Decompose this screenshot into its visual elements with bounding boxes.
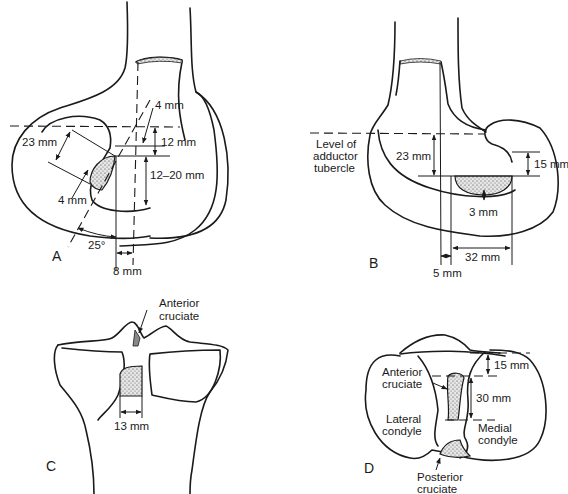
femur-b-cut-surface (400, 59, 441, 65)
femur-a-dashed-reference-horizontal (10, 126, 180, 127)
tibia-d-anterior-cruciate-tunnel (447, 373, 464, 420)
panel-label-d: D (364, 460, 374, 476)
label-b-15mm: 15 mm (534, 158, 568, 170)
tibia-c-lateral-plateau (62, 348, 124, 420)
panel-label-a: A (52, 248, 62, 264)
femur-b-line-vertical-5mm-left (440, 62, 441, 265)
label-b-5mm: 5 mm (433, 267, 462, 279)
label-a-12-20mm: 12–20 mm (150, 169, 204, 181)
label-c-13mm: 13 mm (114, 420, 149, 432)
tibia-c-graft-tunnel (120, 366, 142, 396)
tibia-c-medial-plateau (149, 350, 220, 402)
label-d-medial-line2: condyle (478, 434, 518, 446)
dim-a-23mm (56, 132, 70, 160)
femur-b-notch-left (396, 61, 400, 95)
panel-label-c: C (46, 458, 56, 474)
label-d-30mm: 30 mm (476, 392, 511, 404)
label-a-8mm: 8 mm (113, 265, 142, 277)
femur-a-line-23mm-top (72, 130, 115, 156)
label-d-posterior-line2: cruciate (417, 483, 457, 494)
pointer-d-posterior-cruciate (436, 458, 440, 470)
panel-d-tibial-plateau: 15 mm 30 mm Anterior cruciate Lateral co… (364, 335, 546, 494)
pointer-d-anterior-cruciate (433, 383, 447, 389)
femur-a-dashed-25deg (68, 100, 150, 247)
label-a-4mm-top: 4 mm (155, 99, 184, 111)
label-b-level-line3: tubercle (314, 162, 355, 174)
label-d-medial-line1: Medial (478, 422, 512, 434)
label-b-level-line2: adductor (313, 150, 358, 162)
dim-a-4mm-top (143, 108, 153, 143)
label-a-25deg: 25° (88, 239, 105, 251)
femur-b-notch-wall (441, 62, 486, 130)
label-b-32mm: 32 mm (465, 251, 500, 263)
femur-a-graft-tunnel (90, 156, 115, 190)
label-c-anterior-line2: cruciate (159, 310, 199, 322)
label-b-3mm: 3 mm (469, 206, 498, 218)
tibia-d-anterior-tubercle (400, 335, 500, 353)
label-d-anterior-line1: Anterior (382, 366, 422, 378)
label-d-15mm: 15 mm (494, 359, 529, 371)
femur-a-dashed-axis-vertical (133, 62, 138, 265)
label-c-anterior-line1: Anterior (159, 297, 199, 309)
knee-measurement-figure: 4 mm 23 mm 12 mm 12–20 mm 4 mm 25° 8 mm … (0, 0, 568, 494)
femur-b-dashed-adductor-level (310, 133, 484, 134)
femur-a-condyle-outer (150, 92, 228, 238)
label-b-level-line1: Level of (316, 138, 357, 150)
pointer-c-anterior-cruciate (139, 310, 147, 333)
panel-label-b: B (369, 255, 378, 271)
femur-b-outline-outer (368, 22, 558, 236)
panel-a-femur-lateral: 4 mm 23 mm 12 mm 12–20 mm 4 mm 25° 8 mm … (10, 2, 228, 277)
femur-a-line-23mm-bottom (48, 162, 90, 184)
panel-c-tibia-anterior: Anterior cruciate 13 mm C (46, 297, 228, 494)
panel-b-femur-view: Level of adductor tubercle 23 mm 15 mm 3… (310, 18, 568, 279)
tibia-c-outline-right (58, 322, 228, 494)
tibia-c-outline-left (54, 345, 94, 494)
label-d-posterior-line1: Posterior (417, 471, 463, 483)
label-d-lateral-line2: condyle (382, 425, 422, 437)
label-b-23mm: 23 mm (396, 150, 431, 162)
label-a-4mm-left: 4 mm (58, 194, 87, 206)
femur-b-outline-right-shaft (458, 18, 486, 132)
label-a-12mm: 12 mm (161, 136, 196, 148)
label-a-23mm: 23 mm (22, 136, 57, 148)
tibia-d-posterior-cruciate (440, 440, 470, 457)
label-d-anterior-line2: cruciate (382, 378, 422, 390)
label-d-lateral-line1: Lateral (386, 413, 421, 425)
